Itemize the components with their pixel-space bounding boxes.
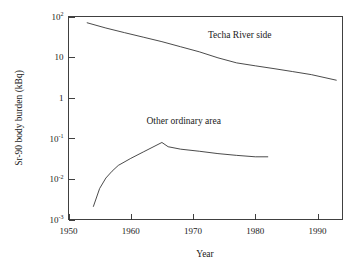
x-axis-title: Year	[196, 249, 214, 259]
series-label-other-ordinary-area: Other ordinary area	[147, 116, 222, 126]
x-tick-label: 1950	[60, 226, 79, 236]
y-tick-label: 1	[59, 93, 64, 103]
y-tick-label: 10-3	[50, 214, 64, 225]
x-tick-label: 1970	[184, 226, 203, 236]
y-tick-label: 10-1	[50, 133, 64, 144]
chart-figure: 10210110-110-210-3 19501960197019801990 …	[0, 0, 351, 268]
y-tick-label: 10-2	[50, 174, 64, 185]
y-axis-tick-labels: 10210110-110-210-3	[50, 11, 65, 225]
x-axis-tick-labels: 19501960197019801990	[60, 226, 328, 236]
series-line-other-ordinary-area	[93, 142, 267, 206]
x-tick-label: 1960	[122, 226, 141, 236]
sr90-body-burden-line-chart: 10210110-110-210-3 19501960197019801990 …	[0, 0, 351, 268]
y-axis-ticks	[69, 18, 75, 221]
y-tick-label: 102	[52, 11, 64, 22]
x-tick-label: 1990	[309, 226, 328, 236]
y-tick-label: 10	[55, 52, 65, 62]
series-label-techa-river-side: Techa River side	[208, 30, 272, 40]
x-axis-ticks	[70, 214, 319, 220]
x-tick-label: 1980	[246, 226, 265, 236]
y-axis-title: Sr-90 body burden (kBq)	[14, 70, 25, 166]
